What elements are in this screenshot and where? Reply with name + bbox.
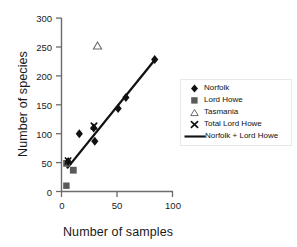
legend-label: Tasmania (204, 107, 238, 117)
y-axis-title-wrapper: Number of species (13, 44, 31, 164)
data-point-lord-howe (70, 167, 77, 174)
x-tick-label: 100 (158, 200, 188, 211)
square-marker-icon (184, 94, 204, 106)
legend-label: Total Lord Howe (204, 119, 262, 129)
series-tasmania (93, 42, 101, 49)
diamond-marker-icon (184, 82, 204, 94)
data-point-norfolk (76, 129, 83, 138)
y-axis-title: Number of species (16, 51, 30, 157)
x-axis-title-wrapper: Number of samples (38, 222, 198, 240)
data-point-tasmania (93, 42, 101, 49)
data-point-lord-howe (63, 183, 69, 189)
y-tick-label: 300 (26, 13, 52, 24)
cross-marker-icon (184, 118, 204, 130)
x-tick-label: 0 (47, 200, 77, 211)
data-point-norfolk (115, 104, 122, 113)
scatter-chart-figure: 300 250 200 150 100 50 0 0 50 100 Number… (0, 0, 297, 247)
y-tick-label: 0 (26, 187, 52, 198)
triangle-marker-icon (184, 106, 204, 118)
legend-label: Norfolk + Lord Howe (205, 131, 278, 141)
line-marker-icon (184, 130, 206, 142)
x-axis-ticks (62, 192, 173, 198)
data-point-norfolk (122, 93, 129, 102)
y-axis-ticks (56, 18, 62, 191)
legend-label: Norfolk (204, 83, 229, 93)
legend-label: Lord Howe (204, 95, 243, 105)
legend-item-norfolk: Norfolk (184, 82, 289, 94)
legend-item-lord-howe: Lord Howe (184, 94, 289, 106)
legend-item-total-lord-howe: Total Lord Howe (184, 118, 289, 130)
legend-item-trendline: Norfolk + Lord Howe (184, 130, 289, 142)
series-total-lord-howe (65, 123, 96, 164)
x-tick-label: 50 (102, 200, 132, 211)
legend-item-tasmania: Tasmania (184, 106, 289, 118)
x-axis-title: Number of samples (63, 225, 173, 239)
trendline-norfolk-plus-lord-howe (67, 60, 155, 169)
chart-legend: Norfolk Lord Howe Tasmania Total Lord Ho… (180, 79, 292, 146)
